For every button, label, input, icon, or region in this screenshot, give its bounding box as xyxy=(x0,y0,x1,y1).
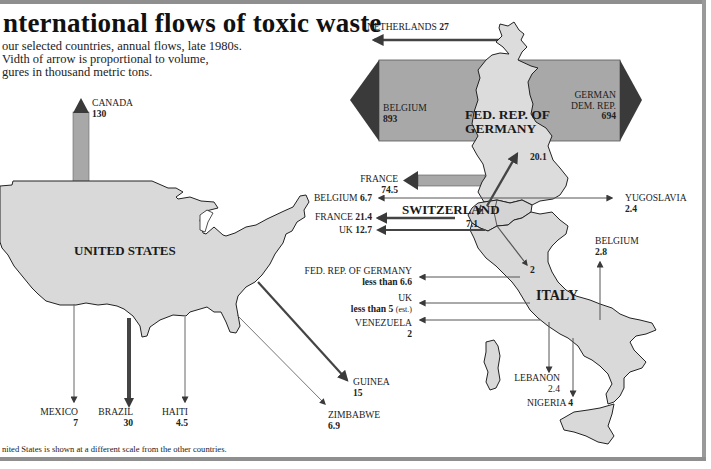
france-74-flow-bar xyxy=(418,175,485,186)
flow-label-guinea: GUINEA15 xyxy=(353,377,390,398)
france-74-arrowhead-icon xyxy=(403,171,418,190)
flow-label-italy-nigeria: NIGERIA 4 xyxy=(527,398,573,409)
belgium-arrowhead-icon xyxy=(350,60,379,141)
flow-label-swiss-france: FRANCE 21.4 xyxy=(304,212,372,223)
gdr-arrowhead-icon xyxy=(620,60,642,141)
flow-label-netherlands: NETHERLANDS 27 xyxy=(367,22,449,33)
canada-arrowhead-icon xyxy=(73,98,89,113)
flow-label-italy-frg: FED. REP. OF GERMANYless than 6.6 xyxy=(300,266,412,287)
origin-label-italy: ITALY xyxy=(536,288,578,304)
flow-label-italy-belgium: BELGIUM2.8 xyxy=(595,236,639,257)
flow-label-swiss-frg: 20.1 xyxy=(530,152,547,163)
flow-label-mexico: MEXICO7 xyxy=(36,407,78,428)
flow-label-swiss-uk: UK 12.7 xyxy=(304,225,372,236)
flow-label-haiti: HAITI4.5 xyxy=(160,407,188,428)
origin-label-frg: FED. REP. OF GERMANY xyxy=(465,108,565,136)
flow-label-swiss-italy: 2 xyxy=(530,265,535,276)
flow-label-italy-lebanon: LEBANON2.4 xyxy=(510,373,560,394)
flow-label-canada: CANADA130 xyxy=(92,98,133,119)
origin-label-switzerland: SWITZERLAND xyxy=(402,202,500,218)
flow-label-zimbabwe: ZIMBABWE6.9 xyxy=(328,410,380,431)
flow-label-brazil: BRAZIL30 xyxy=(96,407,133,428)
flow-label-italy-venezuela: VENEZUELA2 xyxy=(300,318,412,339)
flow-label-italy-uk: UKless than 5 (est.) xyxy=(300,293,412,315)
origin-label-us: UNITED STATES xyxy=(74,243,176,259)
sardinia-landmass xyxy=(484,340,500,390)
flow-label-swiss-yugoslavia: YUGOSLAVIA2.4 xyxy=(625,193,687,214)
us-landmass xyxy=(0,181,309,337)
great-lakes-detail xyxy=(200,210,213,232)
canada-flow-arrow xyxy=(73,112,89,185)
footnote: nited States is shown at a different sca… xyxy=(2,444,227,454)
us-group xyxy=(0,98,309,337)
flow-label-belgium-893: BELGIUM893 xyxy=(383,103,427,124)
flow-label-gdr: GERMANDEM. REP.694 xyxy=(560,90,616,122)
flow-label-swiss-local: 7.1 xyxy=(466,219,478,230)
flow-label-swiss-belgium: BELGIUM 6.7 xyxy=(304,193,372,204)
sicily-landmass xyxy=(560,404,614,444)
